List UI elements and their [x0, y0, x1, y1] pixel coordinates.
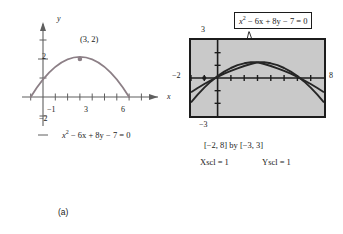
callout-remainder: − 6x + 8y − 7 = 0	[246, 16, 308, 26]
window-label-ymax: 3	[201, 25, 205, 34]
xscl-caption: Xscl = 1	[200, 157, 229, 167]
window-range-caption: [−2, 8] by [−3, 3]	[204, 140, 263, 150]
vertex-coordinate-label: (3, 2)	[80, 34, 98, 44]
y-axis	[40, 22, 46, 126]
panel-a-plot-area: y x 2 −2 −1 3 6 (3, 2) x2 − 6x + 8y − 7 …	[18, 8, 158, 136]
y-tick-label-2: 2	[42, 52, 46, 61]
window-label-ymin: −3	[199, 120, 208, 129]
panel-a-hand-drawn-graph: y x 2 −2 −1 3 6 (3, 2) x2 − 6x + 8y − 7 …	[0, 0, 172, 234]
yscl-caption: Yscl = 1	[262, 157, 291, 167]
panel-b-calculator-screen: x2 − 6x + 8y − 7 = 0 3 −2 8 −3 [−2, 8] b…	[172, 0, 343, 234]
calc-parabola-curve-right	[258, 62, 325, 102]
graphing-calculator-viewport	[189, 38, 326, 118]
equation-callout-box: x2 − 6x + 8y − 7 = 0	[234, 12, 312, 29]
x-tick-label-6: 6	[121, 105, 125, 114]
y-tick-label-neg2: −2	[39, 114, 48, 123]
x-tick-label-3: 3	[84, 105, 88, 114]
x-axis	[22, 94, 158, 100]
calc-x-intercept-left	[202, 76, 206, 80]
equation-remainder: − 6x + 8y − 7 = 0	[69, 130, 131, 140]
vertex-point	[78, 57, 83, 62]
calculator-graph-svg	[191, 40, 324, 116]
calc-parabola-curve-left	[191, 62, 258, 102]
parabola-curve	[31, 57, 129, 97]
figure-container: y x 2 −2 −1 3 6 (3, 2) x2 − 6x + 8y − 7 …	[0, 0, 343, 234]
caption-a: (a)	[58, 207, 68, 217]
x-tick-label-neg1: −1	[47, 105, 56, 114]
panel-a-equation-label: x2 − 6x + 8y − 7 = 0	[62, 129, 130, 140]
window-label-xmin: −2	[172, 71, 181, 80]
x-axis-label: x	[167, 92, 171, 101]
window-label-xmax: 8	[329, 71, 333, 80]
y-axis-label: y	[57, 14, 61, 23]
